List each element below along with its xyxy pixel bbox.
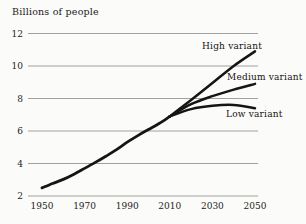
y-axis-tick-label: 4 bbox=[7, 159, 23, 169]
series-line-estimated-population bbox=[42, 116, 170, 187]
x-axis-tick-label: 2050 bbox=[240, 201, 270, 211]
x-axis-tick-label: 2010 bbox=[155, 201, 185, 211]
x-axis-tick-label: 1970 bbox=[70, 201, 100, 211]
y-axis-tick-label: 6 bbox=[7, 126, 23, 136]
x-axis-tick-label: 2030 bbox=[197, 201, 227, 211]
y-axis-tick-label: 2 bbox=[7, 191, 23, 201]
x-axis-tick-label: 1990 bbox=[112, 201, 142, 211]
series-label-high-variant: High variant bbox=[202, 41, 262, 51]
y-axis-tick-label: 12 bbox=[7, 29, 23, 39]
y-axis-tick-label: 8 bbox=[7, 94, 23, 104]
y-axis-tick-label: 10 bbox=[7, 61, 23, 71]
x-axis-tick-label: 1950 bbox=[27, 201, 57, 211]
series-label-medium-variant: Medium variant bbox=[227, 72, 303, 82]
series-label-low-variant: Low variant bbox=[226, 109, 283, 119]
population-projection-chart: Billions of people High variant Medium v… bbox=[0, 0, 306, 224]
